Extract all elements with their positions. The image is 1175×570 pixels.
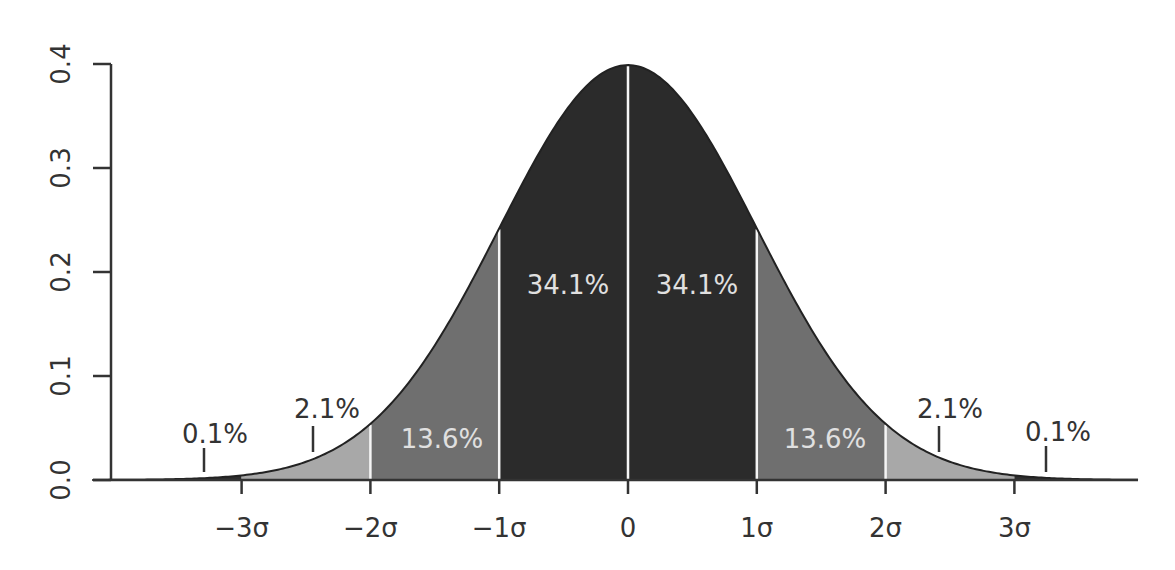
x-axis-ticks: −3σ−2σ−1σ01σ2σ3σ: [214, 480, 1031, 543]
x-tick-label: −3σ: [214, 513, 269, 543]
x-tick-label: 0: [620, 513, 637, 543]
y-tick-label: 0.1: [46, 355, 76, 396]
y-tick-label: 0.3: [46, 147, 76, 188]
x-tick-label: 3σ: [998, 513, 1031, 543]
y-tick-label: 0.2: [46, 251, 76, 292]
percent-label: 13.6%: [784, 424, 867, 454]
percent-label: 2.1%: [917, 394, 983, 424]
x-tick-label: −1σ: [472, 513, 527, 543]
percent-label: 0.1%: [1025, 417, 1091, 447]
y-tick-label: 0.4: [46, 43, 76, 84]
percent-label: 34.1%: [656, 270, 739, 300]
x-tick-label: 2σ: [869, 513, 902, 543]
percent-label: 13.6%: [401, 424, 484, 454]
x-tick-label: −2σ: [343, 513, 398, 543]
percent-label: 34.1%: [527, 270, 610, 300]
percent-label: 0.1%: [182, 419, 248, 449]
normal-distribution-chart: 0.00.10.20.30.4 −3σ−2σ−1σ01σ2σ3σ 0.1%2.1…: [0, 0, 1175, 570]
region-6: [886, 424, 1015, 480]
y-axis-ticks: 0.00.10.20.30.4: [46, 43, 111, 500]
y-tick-label: 0.0: [46, 459, 76, 500]
region-1: [242, 424, 371, 480]
percent-label: 2.1%: [294, 394, 360, 424]
x-tick-label: 1σ: [740, 513, 773, 543]
